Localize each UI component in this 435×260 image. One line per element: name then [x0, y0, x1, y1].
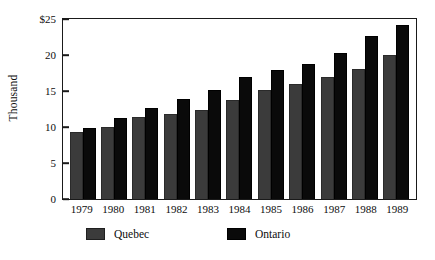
bar-quebec-1980[interactable]: [101, 127, 114, 199]
bar-quebec-1984[interactable]: [226, 100, 239, 199]
chart-legend: QuebecOntario: [62, 228, 417, 248]
bar-quebec-1989[interactable]: [383, 55, 396, 199]
legend-label-quebec: Quebec: [114, 228, 149, 240]
bar-quebec-1985[interactable]: [258, 90, 271, 199]
bar-group: [161, 19, 192, 199]
bar-groups: [63, 19, 416, 199]
bar-quebec-1988[interactable]: [352, 69, 365, 199]
x-axis-tick-label-1987: 1987: [318, 203, 350, 215]
y-axis-tick-label: 15: [45, 85, 56, 97]
bar-quebec-1986[interactable]: [289, 84, 302, 199]
y-axis-tick-label: $25: [40, 13, 57, 25]
bar-ontario-1989[interactable]: [396, 25, 409, 199]
x-axis-tick-label-1986: 1986: [287, 203, 319, 215]
x-axis-tick-label-1979: 1979: [66, 203, 98, 215]
bar-ontario-1986[interactable]: [302, 64, 315, 199]
y-axis-tick-label: 10: [45, 121, 56, 133]
bar-ontario-1980[interactable]: [114, 118, 127, 199]
x-axis-tick-label-1982: 1982: [161, 203, 193, 215]
legend-entry-ontario[interactable]: Ontario: [227, 228, 290, 240]
bar-ontario-1979[interactable]: [83, 128, 96, 199]
x-axis-tick-label-1981: 1981: [129, 203, 161, 215]
legend-label-ontario: Ontario: [255, 228, 290, 240]
bar-chart-figure: Thousand 05101520$25 1979198019811982198…: [0, 0, 435, 260]
bar-group: [98, 19, 129, 199]
bar-group: [224, 19, 255, 199]
x-axis-tick-label-1985: 1985: [255, 203, 287, 215]
bar-group: [381, 19, 412, 199]
bar-ontario-1985[interactable]: [271, 70, 284, 199]
bar-ontario-1988[interactable]: [365, 36, 378, 199]
bar-quebec-1987[interactable]: [321, 77, 334, 199]
y-axis-title: Thousand: [7, 53, 19, 143]
y-axis-tick-label: 0: [51, 193, 57, 205]
bar-quebec-1982[interactable]: [164, 114, 177, 199]
x-axis-tick-label-1988: 1988: [350, 203, 382, 215]
bar-quebec-1983[interactable]: [195, 110, 208, 199]
bar-group: [287, 19, 318, 199]
x-axis-tick-labels: 1979198019811982198319841985198619871988…: [62, 203, 417, 215]
bar-group: [67, 19, 98, 199]
legend-entry-quebec[interactable]: Quebec: [86, 228, 149, 240]
x-axis-tick-label-1989: 1989: [381, 203, 413, 215]
bar-ontario-1983[interactable]: [208, 90, 221, 199]
bar-quebec-1979[interactable]: [70, 132, 83, 199]
bar-group: [255, 19, 286, 199]
bar-ontario-1982[interactable]: [177, 99, 190, 199]
bar-group: [349, 19, 380, 199]
bar-ontario-1984[interactable]: [239, 77, 252, 199]
legend-swatch-quebec: [86, 228, 105, 240]
x-axis-tick-label-1983: 1983: [192, 203, 224, 215]
x-axis-tick-label-1980: 1980: [98, 203, 130, 215]
bar-ontario-1987[interactable]: [334, 53, 347, 199]
y-axis-tick-label: 20: [45, 49, 56, 61]
bar-group: [318, 19, 349, 199]
bar-group: [192, 19, 223, 199]
y-axis-tick-label: 5: [51, 157, 57, 169]
legend-swatch-ontario: [227, 228, 246, 240]
bar-ontario-1981[interactable]: [145, 108, 158, 199]
bar-quebec-1981[interactable]: [132, 117, 145, 199]
plot-area: 05101520$25: [62, 18, 417, 200]
x-axis-tick-label-1984: 1984: [224, 203, 256, 215]
bar-group: [130, 19, 161, 199]
